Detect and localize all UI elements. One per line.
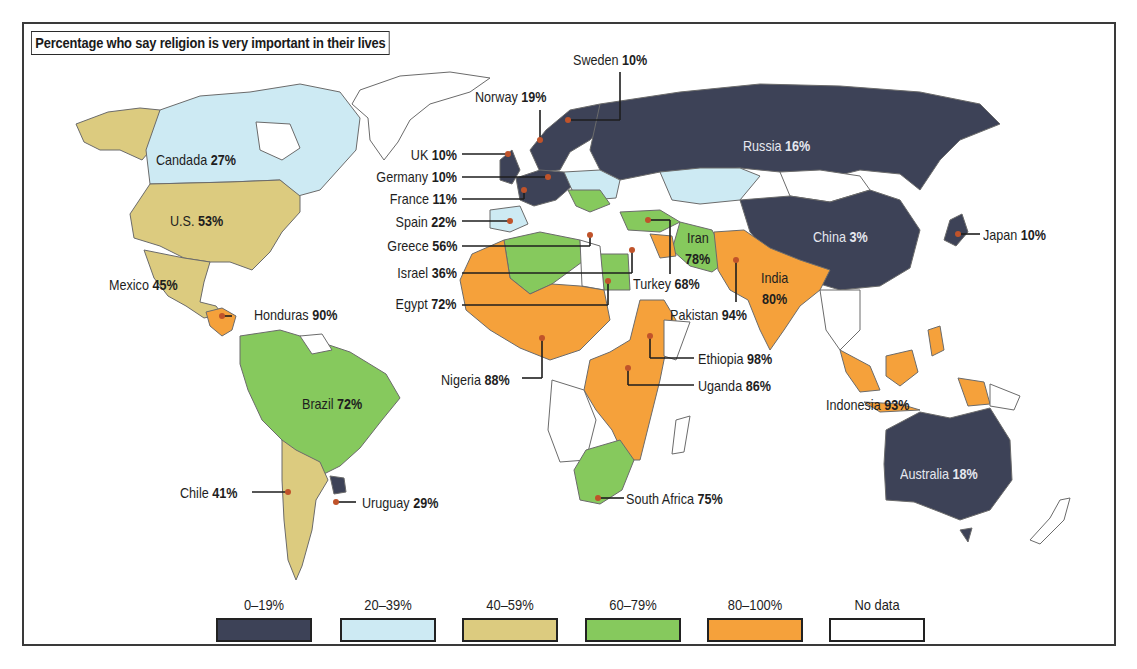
label-honduras: Honduras 90% [254, 306, 337, 324]
label-russia: Russia 16% [743, 137, 810, 155]
label-turkey: Turkey 68% [633, 275, 700, 293]
legend-swatch-80-100 [707, 618, 803, 642]
label-spain: Spain 22% [396, 213, 457, 231]
legend-item-no-data: No data [829, 596, 925, 642]
label-iran: Iran [687, 229, 709, 247]
label-us: U.S. 53% [170, 212, 223, 230]
world-map [0, 0, 1137, 669]
legend-item-60-79: 60–79% [585, 596, 681, 642]
label-germany: Germany 10% [376, 168, 457, 186]
region-japan [944, 214, 968, 246]
label-greece: Greece 56% [387, 237, 457, 255]
region-canada [146, 84, 360, 196]
label-india: India [761, 269, 788, 287]
label-uk: UK 10% [411, 146, 457, 164]
label-canada: Candada 27% [156, 151, 236, 169]
label-iran-value: 78% [685, 250, 710, 268]
chart-title: Percentage who say religion is very impo… [31, 31, 390, 55]
legend-swatch-0-19 [216, 618, 312, 642]
label-south-africa: South Africa 75% [626, 490, 723, 508]
label-ethiopia: Ethiopia 98% [698, 350, 772, 368]
label-mexico: Mexico 45% [109, 276, 178, 294]
label-sweden: Sweden 10% [573, 51, 647, 69]
label-egypt: Egypt 72% [396, 295, 457, 313]
region-australia [884, 408, 1012, 520]
region-central-america [206, 308, 236, 336]
legend-swatch-40-59 [462, 618, 558, 642]
legend-item-20-39: 20–39% [340, 596, 436, 642]
label-uganda: Uganda 86% [698, 377, 771, 395]
region-central-asia [660, 168, 760, 204]
label-china: China 3% [813, 228, 868, 246]
legend-item-0-19: 0–19% [216, 596, 312, 642]
label-norway: Norway 19% [475, 88, 546, 106]
label-nigeria: Nigeria 88% [441, 371, 510, 389]
label-india-value: 80% [762, 290, 787, 308]
label-chile: Chile 41% [180, 484, 237, 502]
legend-swatch-60-79 [585, 618, 681, 642]
label-israel: Israel 36% [397, 264, 457, 282]
legend-item-40-59: 40–59% [462, 596, 558, 642]
label-australia: Australia 18% [900, 465, 978, 483]
region-indonesia [840, 350, 880, 392]
legend-item-80-100: 80–100% [707, 596, 803, 642]
legend-swatch-20-39 [340, 618, 436, 642]
region-egypt [600, 254, 630, 290]
region-uruguay [330, 476, 346, 494]
label-indonesia: Indonesia 93% [826, 396, 909, 414]
label-pakistan: Pakistan 94% [670, 306, 747, 324]
label-japan: Japan 10% [983, 226, 1046, 244]
label-uruguay: Uruguay 29% [362, 494, 438, 512]
label-brazil: Brazil 72% [302, 395, 362, 413]
legend-swatch-no-data [829, 618, 925, 642]
label-france: France 11% [390, 190, 457, 208]
